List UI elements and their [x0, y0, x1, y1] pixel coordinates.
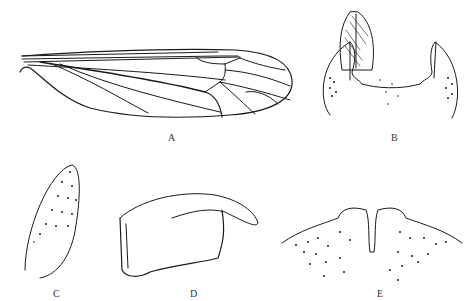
stipple-b: [329, 77, 453, 105]
panel-label-c: C: [53, 288, 60, 299]
panel-label-d: D: [190, 288, 197, 299]
margin-drawing-e: [282, 208, 462, 252]
lobe-drawing-c: [25, 165, 79, 278]
panel-label-b: B: [391, 132, 398, 143]
genital-drawing-b: [323, 12, 457, 118]
stipple-c: [33, 171, 77, 243]
panel-label-a: A: [168, 132, 175, 143]
figure-canvas: [0, 0, 471, 301]
panel-label-e: E: [377, 288, 383, 299]
stipple-e: [295, 231, 447, 281]
gonostylus-drawing-d: [120, 194, 258, 277]
wing-drawing-a: [20, 49, 292, 117]
